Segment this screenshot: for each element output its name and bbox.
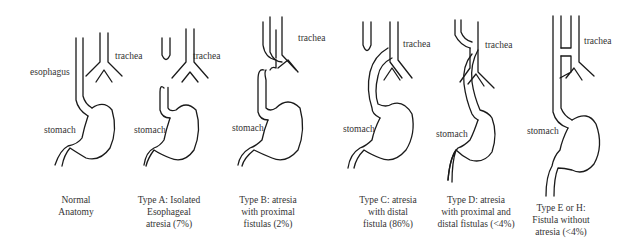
normal-anatomy-drawing xyxy=(55,33,122,166)
caption-type-e-h: Type E or H: Fistula without atresia (<4… xyxy=(506,202,616,238)
trachea-label-type-b: trachea xyxy=(298,34,325,44)
caption-type-a: Type A: Isolated Esophageal atresia (7%) xyxy=(114,194,224,230)
trachea-label-type-d: trachea xyxy=(485,41,512,51)
stomach-label-normal: stomach xyxy=(44,126,76,136)
caption-type-b: Type B: atresia with proximal fistulas (… xyxy=(213,194,323,230)
stomach-label-type-a: stomach xyxy=(134,126,166,136)
trachea-label-type-e-h: trachea xyxy=(584,37,611,47)
stomach-label-type-e-h: stomach xyxy=(527,127,559,137)
stomach-label-type-d: stomach xyxy=(436,130,468,140)
stomach-label-type-c: stomach xyxy=(343,125,375,135)
trachea-label-type-c: trachea xyxy=(403,40,430,50)
trachea-label-type-a: trachea xyxy=(193,52,220,62)
type-a-drawing xyxy=(144,29,208,166)
type-b-drawing xyxy=(238,17,303,166)
trachea-label-normal: trachea xyxy=(115,52,142,62)
stomach-label-type-b: stomach xyxy=(232,124,264,134)
esophagus-label-normal: esophagus xyxy=(30,68,70,78)
